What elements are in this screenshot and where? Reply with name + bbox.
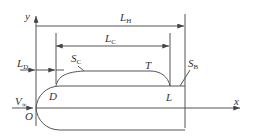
lh-label: LH xyxy=(120,12,131,25)
sc-leader xyxy=(78,66,84,71)
sc-label: SC xyxy=(71,53,81,66)
cavity-body-diagram: y x O LH LC LD D T L SC SB V∞ xyxy=(0,0,255,138)
point-l-label: L xyxy=(166,92,172,103)
point-d-label: D xyxy=(49,91,57,102)
cavity-contour xyxy=(56,71,170,86)
ld-label: LD xyxy=(17,58,28,71)
origin-label: O xyxy=(25,111,33,122)
x-axis-label: x xyxy=(234,96,239,107)
sb-label: SB xyxy=(188,58,198,71)
flow-velocity-label: V∞ xyxy=(15,96,27,109)
lc-label: LC xyxy=(105,33,116,46)
y-axis-label: y xyxy=(25,11,30,22)
point-t-label: T xyxy=(145,60,151,71)
